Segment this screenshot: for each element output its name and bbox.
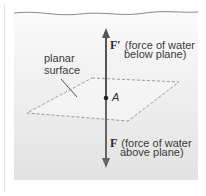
force-above-desc-line2: above plane) <box>120 146 184 158</box>
planar-surface-label-line1: planar <box>44 52 75 64</box>
point-a-label: A <box>112 91 119 103</box>
force-below-desc-line2: below plane) <box>124 48 186 60</box>
diagram-frame: planar surface A F′ (force of water belo… <box>0 0 206 196</box>
point-a-dot <box>104 96 109 101</box>
force-below-symbol: F′ <box>110 38 121 52</box>
force-above-symbol: F <box>110 136 117 150</box>
planar-surface-label-line2: surface <box>44 64 80 76</box>
diagram-canvas <box>0 0 206 196</box>
